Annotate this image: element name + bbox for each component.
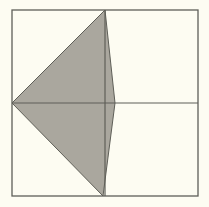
geometry-diagram xyxy=(0,0,209,207)
diagram-svg xyxy=(0,0,209,207)
